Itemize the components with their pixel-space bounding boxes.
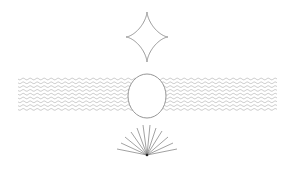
ellipse-shape <box>128 74 166 118</box>
fan-ray <box>147 149 177 155</box>
fan-center-dot <box>146 154 149 157</box>
fan-ray <box>117 149 147 155</box>
fan-rays-group <box>117 125 177 156</box>
astroid-star-shape <box>126 12 168 62</box>
diagram-canvas <box>0 0 294 173</box>
diagram-svg <box>0 0 294 173</box>
